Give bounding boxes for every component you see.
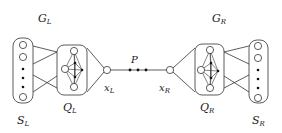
edges-SL-QL bbox=[33, 46, 57, 92]
label-xR: xR bbox=[159, 82, 171, 95]
node-circle bbox=[19, 53, 26, 60]
label-QL: QL bbox=[63, 101, 77, 115]
edges-QR-SR bbox=[224, 46, 249, 92]
edges-xR-QR bbox=[173, 48, 195, 92]
label-GL: GL bbox=[38, 12, 52, 26]
label-SL: SL bbox=[17, 114, 30, 128]
node-dot bbox=[22, 86, 25, 89]
label-P: P bbox=[130, 54, 138, 65]
node-circle bbox=[19, 41, 26, 48]
node-xR bbox=[166, 66, 173, 73]
node-dot bbox=[22, 77, 25, 80]
edges-QL-xL bbox=[87, 48, 104, 92]
graph-diagram: GL GR P xL xR QL QR SL SR bbox=[0, 0, 282, 133]
label-SR: SR bbox=[252, 114, 266, 128]
label-QR: QR bbox=[200, 101, 215, 115]
label-GR: GR bbox=[212, 12, 227, 26]
node-xL bbox=[103, 66, 110, 73]
node-dot bbox=[22, 68, 25, 71]
node-circle bbox=[19, 93, 26, 100]
label-xL: xL bbox=[104, 82, 115, 95]
